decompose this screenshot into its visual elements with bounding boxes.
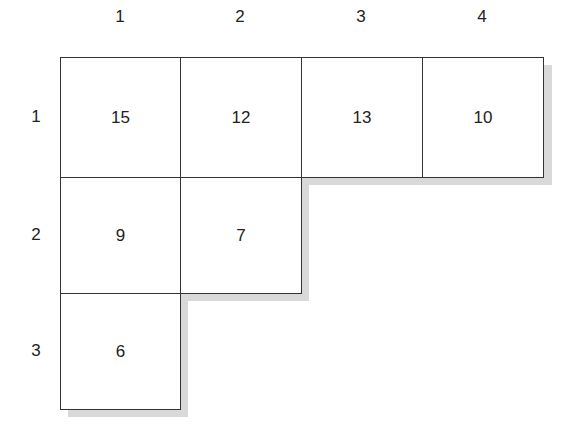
cell-r1-c2: 12: [180, 57, 302, 178]
shadow-row2-right: [301, 177, 309, 301]
cell-r1-c3: 13: [301, 57, 423, 178]
column-label-4: 4: [422, 2, 542, 32]
cell-r2-c2: 7: [180, 177, 302, 294]
shadow-row1-right: [543, 65, 552, 185]
shadow-row3-right: [180, 293, 188, 417]
row-label-2: 2: [22, 220, 50, 250]
column-label-2: 2: [180, 2, 300, 32]
row-label-3: 3: [22, 336, 50, 366]
shadow-row2-bottom: [180, 293, 309, 301]
shadow-row3-bottom: [68, 409, 188, 417]
column-label-1: 1: [60, 2, 180, 32]
cell-r2-c1: 9: [60, 177, 181, 294]
cell-r3-c1: 6: [60, 293, 181, 410]
cell-r1-c4: 10: [422, 57, 544, 178]
row-label-1: 1: [22, 102, 50, 132]
column-label-3: 3: [301, 2, 421, 32]
cell-r1-c1: 15: [60, 57, 181, 178]
shadow-row1-bottom: [301, 177, 552, 185]
